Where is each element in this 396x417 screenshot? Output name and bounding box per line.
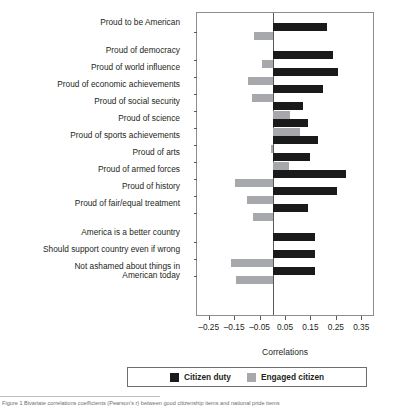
category-label: Proud of fair/equal treatment — [0, 199, 180, 208]
bar-engaged-citizen — [253, 213, 273, 221]
category-label: Proud of armed forces — [0, 165, 180, 174]
x-tick-label: 0.25 — [328, 322, 344, 332]
x-tick — [285, 316, 286, 320]
bar-citizen-duty — [273, 267, 315, 275]
chart-legend: Citizen duty Engaged citizen — [127, 367, 367, 387]
bar-engaged-citizen — [235, 179, 273, 187]
x-tick-label: 0.15 — [302, 322, 318, 332]
chart-figure: Proud to be AmericanProud of democracyPr… — [0, 0, 396, 417]
bar-citizen-duty — [273, 136, 318, 144]
category-label: Proud of arts — [0, 148, 180, 157]
x-tick — [310, 316, 311, 320]
bar-citizen-duty — [273, 68, 338, 76]
y-tick — [194, 259, 197, 260]
bar-citizen-duty — [273, 85, 323, 93]
x-tick-label: –0.15 — [224, 322, 245, 332]
bar-citizen-duty — [273, 170, 345, 178]
x-tick-label: 0.35 — [353, 322, 369, 332]
y-tick — [194, 162, 197, 163]
legend-swatch-engaged-citizen — [247, 373, 256, 382]
x-tick — [260, 316, 261, 320]
legend-swatch-citizen-duty — [170, 373, 179, 382]
x-axis-title: Correlations — [196, 347, 374, 357]
bar-citizen-duty — [273, 250, 315, 258]
y-tick — [194, 213, 197, 214]
category-label: Proud of economic achievements — [0, 80, 180, 89]
category-label: Proud of sports achievements — [0, 131, 180, 140]
category-label: Proud of history — [0, 182, 180, 191]
category-label: Proud of democracy — [0, 46, 180, 55]
y-tick — [194, 60, 197, 61]
y-tick — [194, 145, 197, 146]
x-tick — [361, 316, 362, 320]
category-label: Not ashamed about things in American tod… — [0, 262, 180, 281]
bar-citizen-duty — [273, 233, 315, 241]
y-tick — [194, 111, 197, 112]
bar-citizen-duty — [273, 187, 337, 195]
y-tick — [194, 77, 197, 78]
bar-engaged-citizen — [273, 111, 290, 119]
y-tick — [194, 276, 197, 277]
y-tick — [194, 179, 197, 180]
x-tick — [234, 316, 235, 320]
legend-item-engaged-citizen: Engaged citizen — [247, 372, 324, 382]
caption-divider — [0, 396, 160, 397]
bar-engaged-citizen — [236, 276, 273, 284]
category-label: Proud of science — [0, 114, 180, 123]
y-tick — [194, 242, 197, 243]
bar-citizen-duty — [273, 119, 307, 127]
category-label: Should support country even if wrong — [0, 245, 180, 254]
x-tick — [336, 316, 337, 320]
category-label-column: Proud to be AmericanProud of democracyPr… — [0, 10, 188, 316]
bar-engaged-citizen — [254, 32, 273, 40]
y-tick — [194, 128, 197, 129]
bar-citizen-duty — [273, 102, 302, 110]
y-tick — [194, 196, 197, 197]
legend-label-citizen-duty: Citizen duty — [184, 372, 231, 382]
bar-engaged-citizen — [271, 145, 274, 153]
bar-citizen-duty — [273, 51, 333, 59]
bar-engaged-citizen — [262, 60, 273, 68]
category-label: Proud to be American — [0, 18, 180, 27]
bar-engaged-citizen — [231, 259, 273, 267]
category-label: Proud of world influence — [0, 63, 180, 72]
bar-citizen-duty — [273, 153, 310, 161]
bar-citizen-duty — [273, 23, 326, 31]
x-tick — [209, 316, 210, 320]
bar-engaged-citizen — [273, 128, 300, 136]
y-tick — [194, 32, 197, 33]
x-tick-label: –0.05 — [249, 322, 270, 332]
x-tick-label: –0.25 — [198, 322, 219, 332]
plot-area — [196, 12, 374, 316]
bar-engaged-citizen — [248, 77, 273, 85]
legend-item-citizen-duty: Citizen duty — [170, 372, 231, 382]
x-tick-label: 0.05 — [277, 322, 293, 332]
bar-engaged-citizen — [273, 162, 288, 170]
figure-caption: Figure 1 Bivariate correlations coeffici… — [0, 400, 396, 407]
bar-engaged-citizen — [252, 94, 274, 102]
legend-label-engaged-citizen: Engaged citizen — [261, 372, 324, 382]
y-tick — [194, 94, 197, 95]
category-label: America is a better country — [0, 228, 180, 237]
bar-citizen-duty — [273, 204, 307, 212]
bar-engaged-citizen — [247, 196, 274, 204]
category-label: Proud of social security — [0, 97, 180, 106]
